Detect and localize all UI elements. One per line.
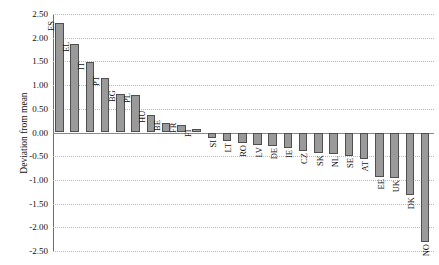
bar [101,78,110,133]
bar [421,133,430,242]
bar-series: ESELITPTBGPLHUBEFRFISILTROLVDEIECZSKNLSE… [53,14,434,251]
bar [284,133,293,149]
bar [406,133,415,195]
bar-group: IE [282,14,297,251]
bar-category-label: DK [406,197,416,209]
bar-category-label: SK [315,155,325,166]
y-axis-tick-label: 0.00 [32,128,48,138]
bar-category-label: HU [137,111,147,123]
bar-category-label: IT [76,62,86,70]
bar-category-label: PT [91,76,101,86]
y-axis-tick-label: -1.50 [29,199,48,209]
bar-group: PT [99,14,114,251]
bar [223,133,232,141]
bar-group: FI [190,14,205,251]
y-axis-tick-label: 1.00 [32,80,48,90]
bar-category-label: NO [421,244,431,256]
y-axis-tick-label: -1.00 [29,175,48,185]
bar-category-label: BE [152,121,162,132]
bar-group: SI [205,14,220,251]
bar-group: SK [312,14,327,251]
y-axis-tick-label: 2.00 [32,33,48,43]
gridline [53,251,434,252]
bar-category-label: DE [269,148,279,159]
bar-category-label: FI [183,129,193,137]
bar-category-label: NL [330,156,340,167]
bar-group: EE [373,14,388,251]
bar-category-label: AT [360,161,370,171]
bar [299,133,308,152]
bar-group: DE [266,14,281,251]
bar [375,133,384,177]
bar [86,62,95,133]
bar [208,133,217,138]
bar-category-label: PL [122,93,132,103]
y-axis-title: Deviation from mean [19,53,29,213]
y-axis-tick-label: 2.50 [32,9,48,19]
bar-category-label: LV [254,147,264,158]
y-axis-tick-label: -0.50 [29,151,48,161]
bar [253,133,262,145]
bar-group: NO [419,14,434,251]
bar [192,129,201,133]
plot-area: 2.502.001.501.000.500.00-0.50-1.00-1.50-… [53,14,434,251]
bar-category-label: FR [168,123,178,133]
bar [329,133,338,155]
bar-group: LV [251,14,266,251]
bar-group: UK [388,14,403,251]
bar [390,133,399,179]
bar-category-label: BG [107,90,117,102]
bar-group: CZ [297,14,312,251]
bar [55,23,64,133]
bar-group: BG [114,14,129,251]
bar-group: DK [404,14,419,251]
bar [314,133,323,154]
bar-group: RO [236,14,251,251]
bar-chart: Deviation from mean 2.502.001.501.000.50… [0,0,439,265]
bar-group: EL [68,14,83,251]
bar-group: SE [343,14,358,251]
bar [238,133,247,144]
bar [360,133,369,160]
bar-group: AT [358,14,373,251]
bar-category-label: CZ [299,153,309,164]
y-axis-tick-label: -2.00 [29,222,48,232]
bar [268,133,277,146]
bar-category-label: SE [345,158,355,168]
bar-category-label: IE [284,150,294,158]
y-axis-tick-label: -2.50 [29,246,48,256]
y-axis-tick-label: 0.50 [32,104,48,114]
bar [70,44,79,133]
bar-category-label: EL [61,41,71,51]
bar-group: PL [129,14,144,251]
bar-group: LT [221,14,236,251]
bar [345,133,354,157]
bar-category-label: SI [208,140,218,148]
bar-group: NL [327,14,342,251]
bar-category-label: ES [46,21,56,31]
y-axis-tick-label: 1.50 [32,56,48,66]
bar-category-label: LT [223,143,233,153]
bar-group: IT [83,14,98,251]
bar-category-label: EE [376,179,386,189]
bar-group: HU [144,14,159,251]
bar-category-label: UK [391,180,401,192]
bar-category-label: RO [238,145,248,157]
